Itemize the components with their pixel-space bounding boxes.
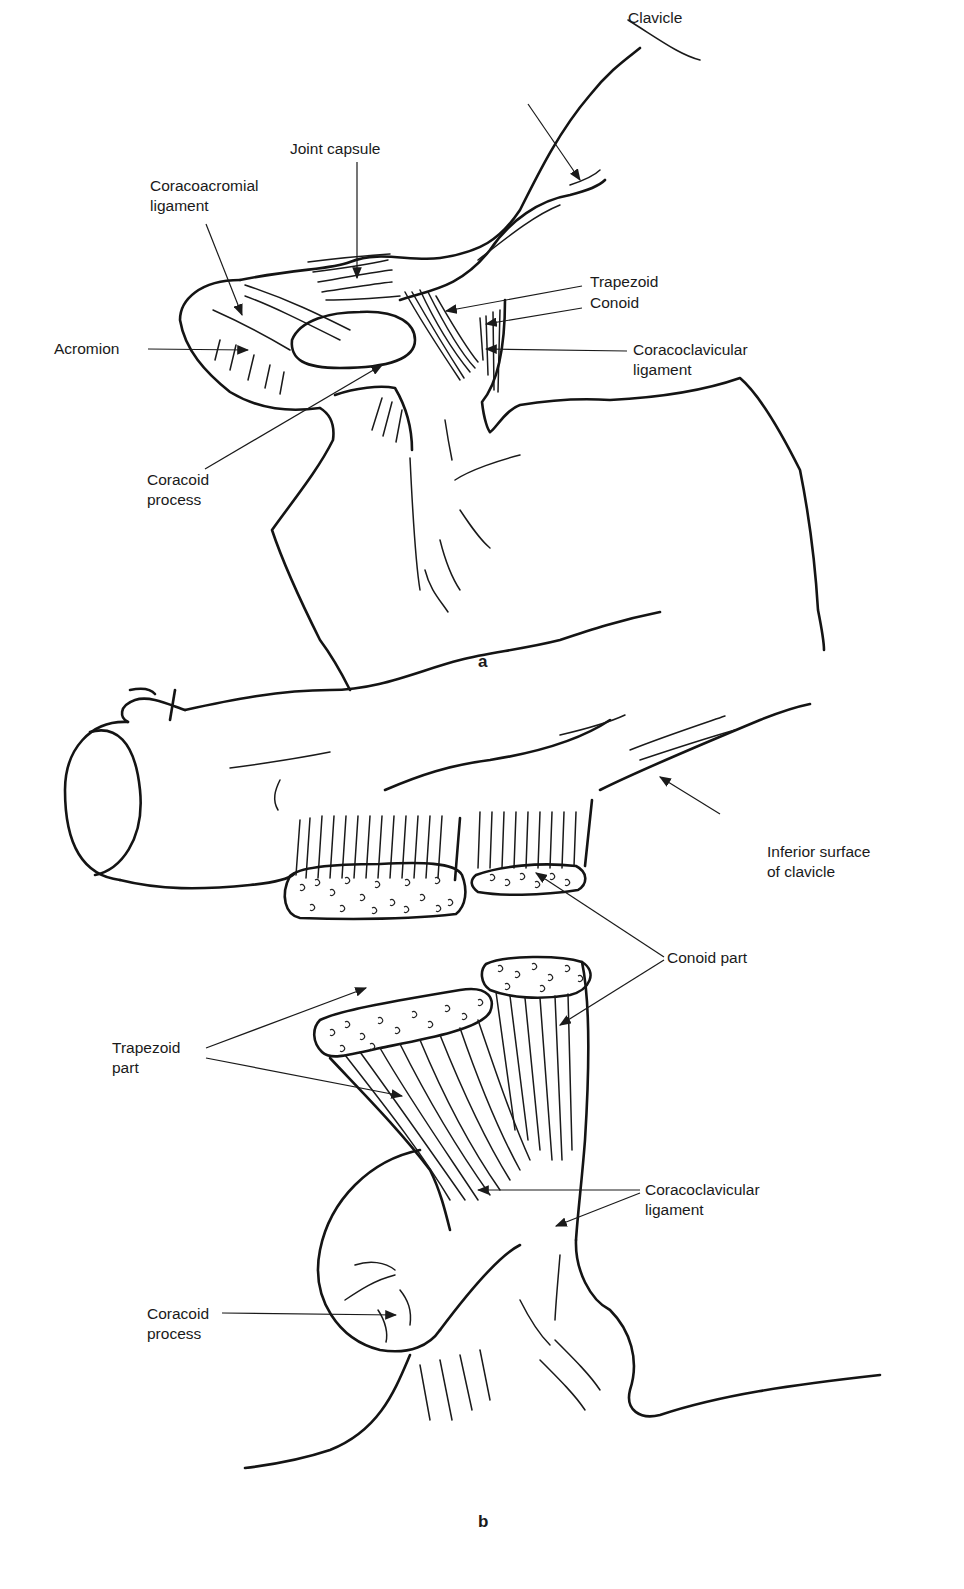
label-coracoacromial-ligament: Coracoacromial ligament <box>150 176 259 216</box>
label-conoid-part: Conoid part <box>667 948 747 968</box>
label-coracoid-process-a: Coracoid process <box>147 470 209 510</box>
label-conoid: Conoid <box>590 293 639 313</box>
panel-label-b: b <box>478 1512 488 1532</box>
cross-section-stipple <box>300 874 583 1052</box>
label-trapezoid-part: Trapezoid part <box>112 1038 180 1078</box>
label-coracoclavicular-ligament-a: Coracoclavicular ligament <box>633 340 748 380</box>
label-coracoid-process-b: Coracoid process <box>147 1304 209 1344</box>
label-acromion: Acromion <box>54 339 119 359</box>
figure-b-leaders <box>206 777 720 1315</box>
label-inferior-surface-of-clavicle: Inferior surface of clavicle <box>767 842 870 882</box>
label-trapezoid: Trapezoid <box>590 272 658 292</box>
label-coracoclavicular-ligament-b: Coracoclavicular ligament <box>645 1180 760 1220</box>
figure-a-leaders <box>148 104 627 469</box>
label-clavicle: Clavicle <box>628 8 682 28</box>
anatomy-drawing <box>0 0 964 1589</box>
panel-label-a: a <box>478 652 487 672</box>
label-joint-capsule: Joint capsule <box>290 139 380 159</box>
